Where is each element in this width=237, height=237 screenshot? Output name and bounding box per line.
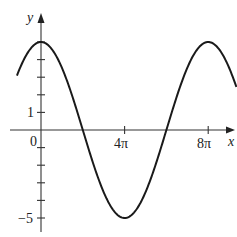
x-tick-label-8pi: 8π: [197, 136, 211, 151]
x-axis-arrow-icon: [226, 127, 235, 134]
x-tick-label-4pi: 4π: [114, 136, 128, 151]
y-axis-label: y: [25, 10, 34, 25]
y-tick-label-1: 1: [27, 105, 34, 120]
plot-area: y x 0 4π 8π 1 −5: [0, 0, 237, 237]
y-tick-label-neg5: −5: [18, 211, 33, 226]
x-axis-label: x: [227, 134, 235, 149]
origin-label: 0: [30, 134, 37, 149]
chart: y x 0 4π 8π 1 −5: [0, 0, 237, 237]
y-axis-arrow-icon: [38, 13, 45, 23]
